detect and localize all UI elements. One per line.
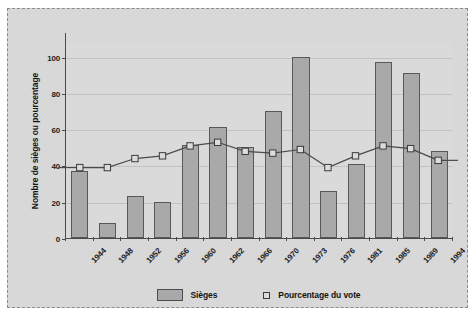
x-axis-tick-mark — [259, 237, 260, 241]
y-axis-title: Nombre de sièges ou pourcentage — [28, 43, 42, 239]
x-axis-tick-label: 1994 — [449, 246, 467, 264]
chart-frame: Nombre de sièges ou pourcentage 02040608… — [7, 8, 468, 308]
x-axis-tick-label: 1960 — [200, 246, 218, 264]
legend-item-sieges: Sièges — [157, 289, 218, 301]
x-axis-tick-label: 1976 — [338, 246, 356, 264]
y-axis-spine — [65, 33, 66, 43]
line-marker — [352, 153, 358, 159]
x-axis-tick-label: 1973 — [311, 246, 329, 264]
line-marker — [132, 155, 138, 161]
x-axis-tick-label: 1989 — [421, 246, 439, 264]
x-axis-labels: 1944194819521956196019621966197019731976… — [65, 241, 452, 283]
x-axis-tick-mark — [286, 237, 287, 241]
chart-legend: Sièges Pourcentage du vote — [65, 285, 452, 305]
x-axis-tick-mark — [120, 237, 121, 241]
x-axis-tick-mark — [203, 237, 204, 241]
line-marker — [325, 164, 331, 170]
legend-swatch-icon — [157, 289, 183, 301]
x-axis-tick-mark — [231, 237, 232, 241]
legend-square-marker-icon — [263, 292, 270, 299]
line-marker — [187, 143, 193, 149]
plot-area: 020406080100 — [65, 43, 452, 239]
x-axis-tick-label: 1944 — [89, 246, 107, 264]
line-series — [66, 43, 452, 238]
legend-label-pourcentage: Pourcentage du vote — [278, 290, 360, 300]
line-marker — [77, 164, 83, 170]
x-axis-tick-mark — [369, 237, 370, 241]
line-marker — [380, 143, 386, 149]
x-axis-tick-mark — [65, 237, 66, 241]
line-marker — [214, 139, 220, 145]
x-axis-tick-mark — [424, 237, 425, 241]
x-axis-tick-mark — [148, 237, 149, 241]
x-axis-tick-mark — [176, 237, 177, 241]
line-marker — [159, 153, 165, 159]
line-marker — [407, 145, 413, 151]
x-axis-tick-label: 1970 — [283, 246, 301, 264]
x-axis-tick-label: 1956 — [172, 246, 190, 264]
x-axis-tick-label: 1981 — [366, 246, 384, 264]
legend-label-sieges: Sièges — [191, 290, 218, 300]
line-marker — [242, 148, 248, 154]
x-axis-tick-label: 1962 — [228, 246, 246, 264]
line-marker — [104, 164, 110, 170]
chart-page: Nombre de sièges ou pourcentage 02040608… — [0, 0, 476, 316]
x-axis-tick-mark — [93, 237, 94, 241]
x-axis-tick-label: 1966 — [255, 246, 273, 264]
x-axis-tick-label: 1948 — [117, 246, 135, 264]
line-marker — [435, 157, 441, 163]
x-axis-tick-label: 1985 — [393, 246, 411, 264]
line-marker — [270, 150, 276, 156]
x-axis-tick-mark — [397, 237, 398, 241]
legend-item-pourcentage: Pourcentage du vote — [263, 290, 360, 300]
line-marker — [297, 146, 303, 152]
x-axis-tick-label: 1952 — [145, 246, 163, 264]
x-axis-tick-mark — [314, 237, 315, 241]
x-axis-tick-mark — [341, 237, 342, 241]
y-axis-title-label: Nombre de sièges ou pourcentage — [30, 73, 40, 209]
x-axis-tick-mark — [452, 237, 453, 241]
